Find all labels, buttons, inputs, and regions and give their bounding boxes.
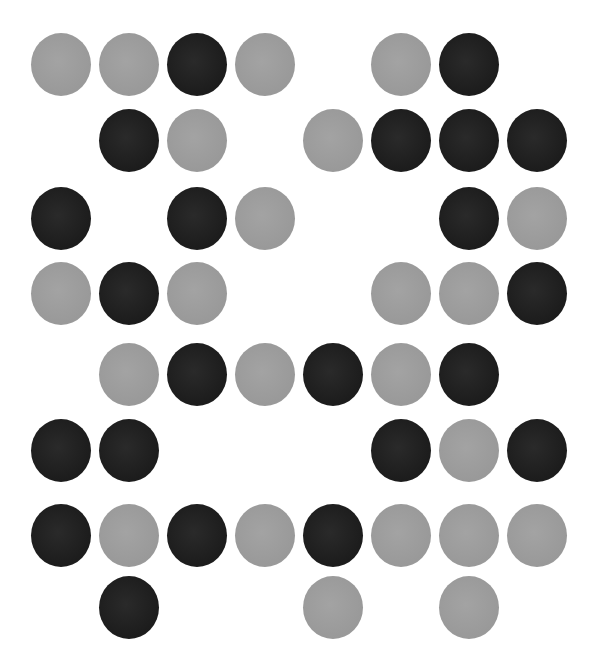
gray-circle-r3-c8	[507, 187, 567, 250]
dark-circle-r4-c8	[507, 262, 567, 325]
gray-circle-r1-c1	[31, 33, 91, 96]
dark-circle-r8-c2	[99, 576, 159, 639]
dark-circle-r5-c5	[303, 343, 363, 406]
dark-circle-r5-c7	[439, 343, 499, 406]
gray-circle-r5-c2	[99, 343, 159, 406]
gray-circle-r5-c4	[235, 343, 295, 406]
gray-circle-r1-c2	[99, 33, 159, 96]
gray-circle-r3-c4	[235, 187, 295, 250]
gray-circle-r7-c7	[439, 504, 499, 567]
gray-circle-r1-c4	[235, 33, 295, 96]
gray-circle-r1-c6	[371, 33, 431, 96]
gray-circle-r4-c7	[439, 262, 499, 325]
dark-circle-r2-c6	[371, 109, 431, 172]
gray-circle-r4-c3	[167, 262, 227, 325]
gray-circle-r7-c6	[371, 504, 431, 567]
dark-circle-r4-c2	[99, 262, 159, 325]
cropped-caption	[0, 0, 592, 4]
dark-circle-r5-c3	[167, 343, 227, 406]
dark-circle-r2-c2	[99, 109, 159, 172]
dark-circle-r3-c7	[439, 187, 499, 250]
dark-circle-r2-c8	[507, 109, 567, 172]
gray-circle-r2-c5	[303, 109, 363, 172]
dark-circle-r6-c1	[31, 419, 91, 482]
dark-circle-r6-c8	[507, 419, 567, 482]
dark-circle-r1-c3	[167, 33, 227, 96]
dark-circle-r2-c7	[439, 109, 499, 172]
gray-circle-r4-c6	[371, 262, 431, 325]
gray-circle-r7-c8	[507, 504, 567, 567]
gray-circle-r8-c5	[303, 576, 363, 639]
gray-circle-r5-c6	[371, 343, 431, 406]
dark-circle-r7-c5	[303, 504, 363, 567]
gray-circle-r6-c7	[439, 419, 499, 482]
dark-circle-r3-c1	[31, 187, 91, 250]
gray-circle-r2-c3	[167, 109, 227, 172]
dark-circle-r1-c7	[439, 33, 499, 96]
dark-circle-r6-c6	[371, 419, 431, 482]
dark-circle-r7-c1	[31, 504, 91, 567]
dark-circle-r6-c2	[99, 419, 159, 482]
dot-grid-figure	[0, 0, 592, 667]
gray-circle-r7-c2	[99, 504, 159, 567]
gray-circle-r8-c7	[439, 576, 499, 639]
dark-circle-r7-c3	[167, 504, 227, 567]
gray-circle-r7-c4	[235, 504, 295, 567]
dark-circle-r3-c3	[167, 187, 227, 250]
gray-circle-r4-c1	[31, 262, 91, 325]
